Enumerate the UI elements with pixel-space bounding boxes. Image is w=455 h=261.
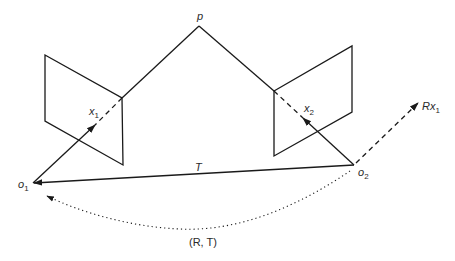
label-p: p [196,10,203,22]
translation-vector [34,165,354,183]
image-plane-left [45,55,123,165]
label-x2: x2 [303,102,315,117]
image-plane-right [274,46,352,156]
label-T: T [195,161,203,173]
label-o2: o2 [358,166,369,181]
vector-x1 [33,125,95,183]
ray-left-dashed [95,98,122,125]
ray-right-dashed [274,91,303,118]
epipolar-diagram: p x1 x2 o1 o2 T Rx1 (R, T) [0,0,455,261]
label-o1: o1 [18,178,29,193]
label-rx1: Rx1 [422,100,440,115]
ray-p-to-left-plane [122,26,199,98]
label-x1: x1 [88,105,100,120]
ray-p-to-right-plane [199,26,274,91]
label-transform: (R, T) [189,236,217,248]
rotated-ray-rx1 [356,103,418,163]
